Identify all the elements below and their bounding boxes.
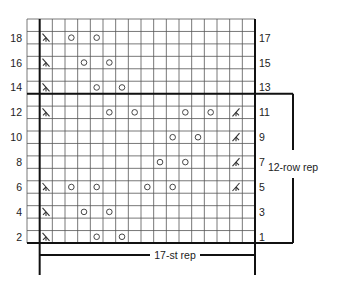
yarn-over-symbol	[157, 159, 163, 165]
yarn-over-symbol	[119, 234, 125, 240]
yarn-over-symbol	[94, 184, 100, 190]
yarn-over-symbol	[170, 184, 176, 190]
row-label-left: 18	[10, 32, 22, 44]
row-label-right: 7	[259, 156, 265, 168]
k2tog-decrease-symbol	[233, 183, 240, 191]
ssk-decrease-symbol	[43, 108, 50, 116]
k2tog-decrease-symbol	[233, 158, 240, 166]
row-label-left: 6	[16, 181, 22, 193]
row-label-right: 15	[259, 57, 271, 69]
ssk-decrease-symbol	[43, 183, 50, 191]
yarn-over-symbol	[94, 85, 100, 91]
k2tog-decrease-symbol	[233, 108, 240, 116]
row-label-left: 12	[10, 106, 22, 118]
row-label-right: 1	[259, 231, 265, 243]
yarn-over-symbol	[183, 110, 189, 116]
ssk-decrease-symbol	[43, 233, 50, 241]
row-label-right: 5	[259, 181, 265, 193]
row-label-left: 2	[16, 231, 22, 243]
yarn-over-symbol	[94, 35, 100, 41]
row-label-left: 4	[16, 206, 22, 218]
yarn-over-symbol	[170, 134, 176, 140]
ssk-decrease-symbol	[43, 59, 50, 67]
row-label-left: 14	[10, 81, 22, 93]
yarn-over-symbol	[195, 134, 201, 140]
grid-lines	[27, 19, 255, 243]
yarn-over-symbol	[208, 110, 214, 116]
row-repeat-label: 12-row rep	[268, 161, 318, 173]
yarn-over-symbol	[81, 60, 87, 66]
yarn-over-symbol	[107, 110, 113, 116]
knitting-chart: 246810121416181357911131517 17-st rep 12…	[0, 0, 343, 281]
row-label-left: 10	[10, 131, 22, 143]
row-label-right: 3	[259, 206, 265, 218]
ssk-decrease-symbol	[43, 208, 50, 216]
k2tog-decrease-symbol	[233, 133, 240, 141]
yarn-over-symbol	[145, 184, 151, 190]
row-label-left: 16	[10, 57, 22, 69]
yarn-over-symbol	[107, 209, 113, 215]
repeat-boundaries	[27, 19, 293, 275]
ssk-decrease-symbol	[43, 83, 50, 91]
stitch-repeat-label: 17-st rep	[154, 249, 196, 261]
yarn-over-symbol	[69, 184, 75, 190]
yarn-over-symbol	[132, 110, 138, 116]
yarn-over-symbol	[94, 234, 100, 240]
row-label-right: 9	[259, 131, 265, 143]
yarn-over-symbol	[119, 85, 125, 91]
yarn-over-symbol	[183, 159, 189, 165]
row-label-left: 8	[16, 156, 22, 168]
row-labels: 246810121416181357911131517	[10, 32, 271, 243]
row-label-right: 17	[259, 32, 271, 44]
yarn-over-symbol	[81, 209, 87, 215]
row-label-right: 11	[259, 106, 270, 118]
row-label-right: 13	[259, 81, 271, 93]
yarn-over-symbol	[107, 60, 113, 66]
ssk-decrease-symbol	[43, 34, 50, 42]
yarn-over-symbol	[69, 35, 75, 41]
